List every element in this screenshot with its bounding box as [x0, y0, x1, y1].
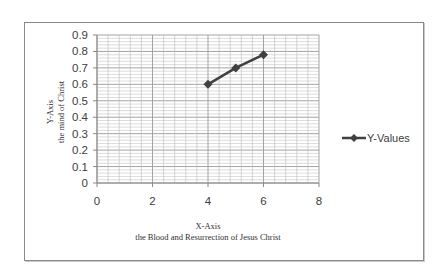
y-tick-labels: 00.10.20.30.40.50.60.70.80.9 [72, 29, 89, 189]
y-tick-label: 0.6 [72, 78, 88, 90]
x-tick-label: 4 [205, 195, 212, 207]
y-tick-label: 0.3 [72, 128, 88, 140]
x-tick-label: 0 [94, 195, 100, 207]
x-tick-label: 8 [316, 195, 322, 207]
grid-lines [97, 35, 319, 183]
x-axis-sublabel: the Blood and Resurrection of Jesus Chri… [135, 232, 281, 242]
y-tick-label: 0.1 [72, 161, 88, 173]
y-axis-title: Y-Axis the mind of Christ [45, 80, 66, 143]
x-axis-label: X-Axis [195, 221, 220, 231]
line-chart: 00.10.20.30.40.50.60.70.80.9 02468 Y-Axi… [0, 0, 444, 277]
legend: Y-Values [342, 132, 410, 144]
x-tick-labels: 02468 [94, 195, 322, 207]
y-tick-label: 0.7 [72, 62, 88, 74]
y-tick-label: 0.9 [72, 29, 88, 41]
y-axis-label: Y-Axis [45, 100, 55, 124]
x-tick-label: 6 [260, 195, 266, 207]
y-tick-label: 0.2 [72, 144, 88, 156]
x-tick-label: 2 [149, 195, 155, 207]
y-tick-label: 0.5 [72, 95, 88, 107]
y-tick-label: 0.8 [72, 45, 88, 57]
legend-diamond-marker-icon [350, 134, 358, 142]
y-tick-label: 0.4 [72, 111, 89, 123]
y-axis-sublabel: the mind of Christ [56, 80, 66, 143]
y-tick-label: 0 [82, 177, 88, 189]
data-series [204, 50, 269, 89]
legend-label: Y-Values [367, 132, 410, 144]
